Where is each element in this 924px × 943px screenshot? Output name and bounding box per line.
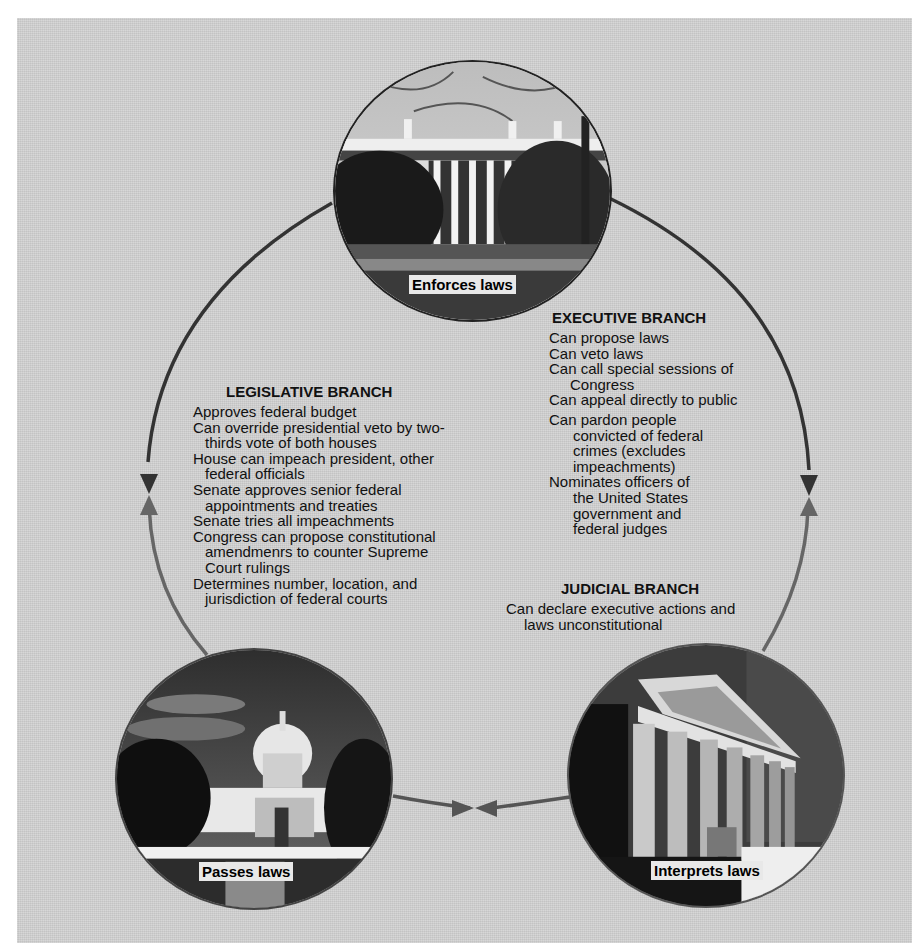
executive-item: Can propose laws	[549, 330, 789, 346]
legislative-item: Senate tries all impeachments	[193, 513, 533, 529]
executive-item: Can veto laws	[549, 346, 789, 362]
executive-caption: Enforces laws	[409, 275, 516, 294]
executive-item: Nominates officers of the United States …	[549, 474, 789, 536]
legislative-heading: LEGISLATIVE BRANCH	[193, 383, 533, 401]
judicial-branch-block: JUDICIAL BRANCH Can declare executive ac…	[506, 580, 796, 632]
legislative-item: House can impeach president, other feder…	[193, 451, 533, 482]
diagram-page: Enforces laws	[0, 0, 924, 943]
arrowhead-down-right	[800, 475, 818, 496]
arrowhead-left-bottom	[475, 800, 497, 817]
executive-branch-block: EXECUTIVE BRANCH Can propose laws Can ve…	[549, 309, 789, 537]
arrowhead-up-right	[800, 497, 818, 516]
judicial-item: Can declare executive actions and laws u…	[506, 601, 796, 632]
legislative-item: Senate approves senior federal appointme…	[193, 482, 533, 513]
arc-legislative-judicial-right	[492, 797, 570, 808]
arrowhead-up-left	[140, 495, 158, 515]
executive-item: Can call special sessions of Congress	[549, 361, 789, 392]
executive-item: Can pardon people convicted of federal c…	[549, 412, 789, 474]
judicial-caption: Interprets laws	[651, 861, 763, 880]
executive-item: Can appeal directly to public	[549, 392, 789, 408]
legislative-item: Approves federal budget	[193, 404, 533, 420]
legislative-item: Can override presidential veto by two- t…	[193, 420, 533, 451]
arrowhead-right-bottom	[452, 800, 474, 817]
legislative-caption: Passes laws	[199, 862, 293, 881]
arrowhead-down-left	[140, 474, 158, 494]
legislative-item: Determines number, location, and jurisdi…	[193, 576, 533, 607]
legislative-item: Congress can propose constitutional amen…	[193, 529, 533, 576]
judicial-heading: JUDICIAL BRANCH	[506, 580, 796, 598]
executive-heading: EXECUTIVE BRANCH	[549, 309, 789, 327]
legislative-branch-block: LEGISLATIVE BRANCH Approves federal budg…	[193, 383, 533, 607]
